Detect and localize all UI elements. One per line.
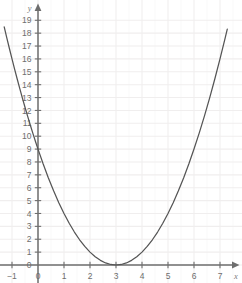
y-tick-label: 7 bbox=[27, 170, 32, 180]
y-tick-label: 19 bbox=[22, 15, 32, 25]
y-tick-label: 10 bbox=[22, 131, 32, 141]
x-tick-label: 2 bbox=[88, 271, 93, 281]
x-tick-label: 0 bbox=[36, 271, 41, 281]
y-axis-label: y bbox=[27, 3, 32, 13]
y-tick-label: 3 bbox=[27, 221, 32, 231]
x-tick-label: −1 bbox=[7, 271, 17, 281]
plot-background bbox=[0, 0, 242, 283]
y-tick-label: 5 bbox=[27, 196, 32, 206]
y-tick-label: 4 bbox=[27, 209, 32, 219]
y-tick-label: 8 bbox=[27, 157, 32, 167]
graph-canvas: −101234567012345678910111213141516171819… bbox=[0, 0, 242, 283]
y-tick-label: 0 bbox=[27, 260, 32, 270]
x-tick-label: 7 bbox=[218, 271, 223, 281]
y-tick-label: 17 bbox=[22, 41, 32, 51]
parabola-graph: −101234567012345678910111213141516171819… bbox=[0, 0, 242, 283]
y-tick-label: 15 bbox=[22, 67, 32, 77]
y-tick-label: 6 bbox=[27, 183, 32, 193]
x-tick-label: 4 bbox=[140, 271, 145, 281]
y-tick-label: 14 bbox=[22, 80, 32, 90]
x-axis-label: x bbox=[233, 271, 238, 281]
x-tick-label: 5 bbox=[166, 271, 171, 281]
y-tick-label: 16 bbox=[22, 54, 32, 64]
x-tick-label: 3 bbox=[114, 271, 119, 281]
y-tick-label: 2 bbox=[27, 234, 32, 244]
y-tick-label: 18 bbox=[22, 28, 32, 38]
y-tick-label: 9 bbox=[27, 144, 32, 154]
x-tick-label: 6 bbox=[192, 271, 197, 281]
y-tick-label: 1 bbox=[27, 247, 32, 257]
x-tick-label: 1 bbox=[62, 271, 67, 281]
